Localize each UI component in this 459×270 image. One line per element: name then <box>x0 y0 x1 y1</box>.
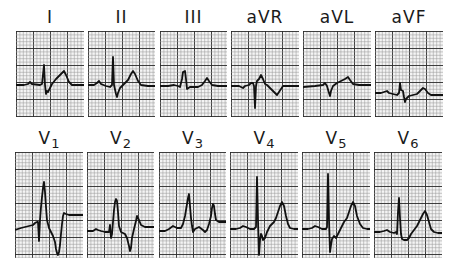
ecg-grid <box>374 152 442 258</box>
lead-label: I <box>16 9 84 26</box>
lead-label: V4 <box>230 130 298 152</box>
lead-label-subscript: 5 <box>338 136 346 151</box>
ecg-grid-panel <box>230 152 298 258</box>
lead-label: V5 <box>302 130 370 152</box>
ecg-grid <box>302 152 370 258</box>
ecg-grid-panel <box>374 152 442 258</box>
ecg-grid-panel <box>16 31 84 117</box>
lead-label-text: V <box>182 128 195 148</box>
lead-label: II <box>88 9 155 26</box>
lead-v5: V5 <box>302 130 370 258</box>
ecg-grid <box>160 31 227 117</box>
lead-label: III <box>160 9 227 26</box>
lead-label: V1 <box>15 130 83 152</box>
ecg-grid-panel <box>231 31 299 117</box>
lead-label-subscript: 4 <box>266 136 274 151</box>
lead-i: I <box>16 9 84 117</box>
lead-label-subscript: 1 <box>51 136 59 151</box>
ecg-grid-panel <box>15 152 83 258</box>
ecg-grid <box>15 152 83 258</box>
lead-v4: V4 <box>230 130 298 258</box>
lead-v3: V3 <box>159 130 226 258</box>
ecg-grid-panel <box>375 31 443 117</box>
lead-label-text: III <box>184 7 202 27</box>
lead-label-subscript: 2 <box>123 136 131 151</box>
lead-label: aVL <box>303 9 371 26</box>
lead-ii: II <box>88 9 155 117</box>
ecg-grid-panel <box>160 31 227 117</box>
lead-avf: aVF <box>375 9 443 117</box>
lead-v6: V6 <box>374 130 442 258</box>
lead-avl: aVL <box>303 9 371 117</box>
lead-label-text: II <box>115 7 127 27</box>
lead-label-text: aVL <box>320 7 355 27</box>
lead-label: aVR <box>231 9 299 26</box>
ecg-grid <box>231 31 299 117</box>
ecg-grid <box>230 152 298 258</box>
lead-label-text: V <box>110 128 123 148</box>
ecg-grid <box>375 31 443 117</box>
ecg-grid-panel <box>87 152 154 258</box>
lead-label-text: aVF <box>392 7 427 27</box>
ecg-grid <box>16 31 84 117</box>
lead-label-text: V <box>326 128 339 148</box>
lead-iii: III <box>160 9 227 117</box>
lead-label-text: I <box>47 7 53 27</box>
ecg-grid <box>88 31 155 117</box>
lead-v2: V2 <box>87 130 154 258</box>
lead-label-text: V <box>398 128 411 148</box>
lead-label: V6 <box>374 130 442 152</box>
lead-label-text: V <box>39 128 52 148</box>
ecg-grid-panel <box>159 152 226 258</box>
lead-label: aVF <box>375 9 443 26</box>
lead-label-subscript: 3 <box>195 136 203 151</box>
ecg-grid <box>303 31 371 117</box>
ecg-grid-panel <box>88 31 155 117</box>
ecg-grid <box>159 152 226 258</box>
ecg-grid <box>87 152 154 258</box>
ecg-grid-panel <box>302 152 370 258</box>
lead-label-text: aVR <box>247 7 284 27</box>
lead-v1: V1 <box>15 130 83 258</box>
ecg-grid-panel <box>303 31 371 117</box>
lead-label-text: V <box>254 128 267 148</box>
lead-label: V3 <box>159 130 226 152</box>
lead-avr: aVR <box>231 9 299 117</box>
lead-label-subscript: 6 <box>410 136 418 151</box>
lead-label: V2 <box>87 130 154 152</box>
